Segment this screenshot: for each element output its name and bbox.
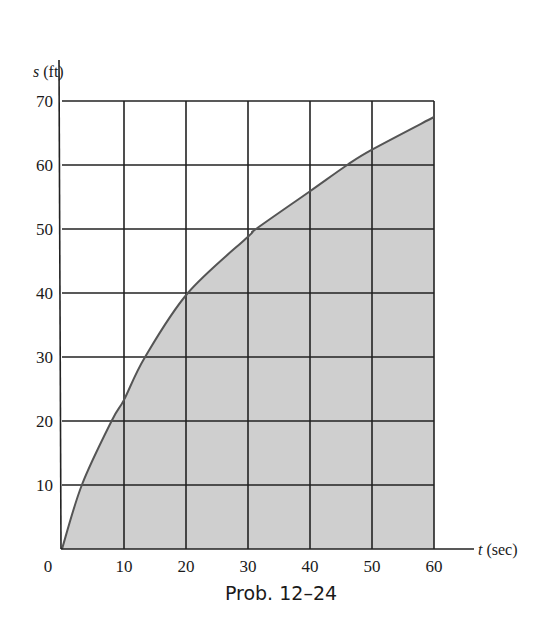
x-tick-label: 60 [426, 557, 443, 576]
y-axis-variable: s [33, 63, 39, 80]
x-tick-label: 0 [44, 557, 53, 576]
x-tick-label: 10 [116, 557, 133, 576]
figure-caption: Prob. 12–24 [225, 582, 337, 604]
y-tick-labels: 10203040506070 [36, 92, 53, 495]
y-tick-label: 30 [36, 348, 53, 367]
y-tick-label: 70 [36, 92, 53, 111]
x-tick-label: 40 [302, 557, 319, 576]
y-tick-label: 60 [36, 156, 53, 175]
x-tick-label: 20 [178, 557, 195, 576]
x-axis-label: t(sec) [478, 541, 518, 559]
x-axis-unit: (sec) [486, 541, 517, 559]
x-tick-label: 30 [240, 557, 257, 576]
y-tick-label: 40 [36, 284, 53, 303]
x-axis-variable: t [478, 541, 483, 558]
y-axis-label: s(ft) [33, 63, 64, 81]
y-tick-label: 50 [36, 220, 53, 239]
y-axis-line [59, 60, 61, 549]
x-tick-labels: 0102030405060 [44, 557, 443, 576]
chart-figure: 10203040506070 0102030405060 s(ft) t(sec… [0, 0, 559, 640]
y-axis-unit: (ft) [43, 63, 63, 81]
x-tick-label: 50 [364, 557, 381, 576]
y-tick-label: 20 [36, 412, 53, 431]
y-tick-label: 10 [36, 476, 53, 495]
